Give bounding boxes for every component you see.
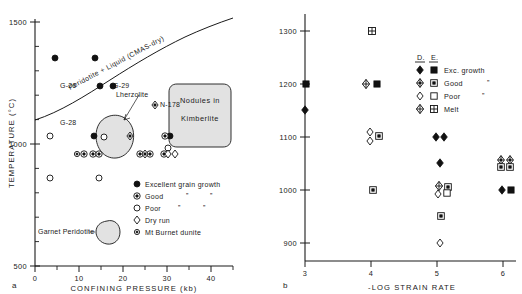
garnet-peridotite-blob [96,221,120,245]
point-label-g26: G-26 [60,82,76,89]
panel-b: 1300 1200 1100 1000 900 3 4 5 6 -LOG STR… [279,14,516,292]
panel-a-ytick-500: 500 [13,262,27,271]
nodules-label-line2: Kimberlite [181,114,219,123]
panel-a-xtick-20: 20 [118,274,127,283]
point-label-g28: G-28 [60,119,76,126]
panel-a-legend-ditto-good-2: ” [210,192,213,199]
panel-a-xtick-10: 10 [74,274,83,283]
panel-a-legend-ditto-poor-1: ” [178,204,181,211]
panel-a-legend-label-dryrun: Dry run [145,217,170,225]
panel-b-legend-label-good: Good [444,79,463,88]
point-label-n178: N-178 [160,101,180,108]
panel-a-legend-ditto-good-1: ” [186,192,189,199]
panel-a-legend-label-excellent: Excellent grain growth [145,181,220,189]
panel-a-legend-ditto-poor-2: ” [203,204,206,211]
panel-b-ytick-1000: 1000 [279,186,297,195]
panel-b-ytick-1100: 1100 [280,133,298,142]
panel-a-legend-label-poor: Poor [145,205,161,212]
nodules-label-line1: Nodules in [180,96,220,105]
panel-b-legend-label-exc: Exc. growth [444,66,485,75]
panel-b-xtick-4: 4 [369,269,374,278]
figure-root: 1500 1000 500 0 10 20 30 40 CONFINING PR… [0,0,522,294]
panel-b-axes [300,14,516,267]
panel-a: 1500 1000 500 0 10 20 30 40 CONFINING PR… [7,18,233,293]
panel-a-x-axis-title: CONFINING PRESSURE (kb) [71,284,198,293]
panel-a-legend-label-good: Good [145,193,163,200]
panel-b-ytick-900: 900 [283,239,297,248]
panel-a-xtick-40: 40 [206,274,215,283]
panel-b-ytick-1300: 1300 [279,27,297,36]
point-label-lherzolite: Lherzolite [116,91,148,98]
panel-b-legend-header-d: D. [417,53,425,62]
panel-b-xtick-5: 5 [435,269,440,278]
panel-b-legend-ditto-good: ” [487,78,490,87]
panel-b-data-points [302,28,514,248]
panel-a-series-mtburnet [74,151,79,156]
panel-b-legend-label-melt: Melt [444,105,459,114]
panel-b-ytick-1200: 1200 [279,80,297,89]
panel-b-legend-ditto-poor: ” [482,91,485,100]
panel-b-legend-header-e: E. [431,53,438,62]
panel-a-legend: Excellent grain growth Good ” ” Poor ” ”… [134,181,221,236]
panel-b-xtick-6: 6 [501,269,506,278]
panel-a-y-axis-title: TEMPERATURE (°C) [7,98,16,188]
panel-b-xtick-3: 3 [303,269,308,278]
panel-a-xtick-0: 0 [33,274,38,283]
point-label-garnet-peridotite: Garnet Peridotite [38,228,94,235]
figure-svg: 1500 1000 500 0 10 20 30 40 CONFINING PR… [0,0,522,294]
panel-b-legend-label-poor: Poor [444,92,461,101]
panel-a-xtick-30: 30 [162,274,171,283]
panel-a-legend-label-mtburnet: Mt Burnet dunite [145,229,201,236]
panel-b-x-axis-title: -LOG STRAIN RATE [368,283,456,292]
panel-b-legend: D. E. Exc. growth Good ” Poor ” Melt [415,53,490,114]
lherzolite-leader-line [124,95,139,120]
panel-a-ytick-1500: 1500 [9,18,27,27]
panel-a-letter: a [12,281,17,290]
panel-b-letter: b [283,281,288,290]
